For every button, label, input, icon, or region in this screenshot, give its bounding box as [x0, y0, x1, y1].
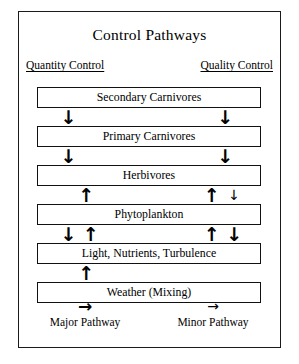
minor-pathway-down-arrow-icon: ↓: [226, 186, 242, 204]
trophic-level: Primary Carnivores: [37, 126, 261, 147]
arrow-gap: ↓↓: [37, 108, 261, 126]
minor-pathway-arrow-icon: →: [158, 296, 268, 316]
major-pathway-down-arrow-icon: ↓: [60, 147, 76, 165]
major-pathway-up-arrow-icon: ↑: [83, 225, 99, 243]
major-pathway-down-arrow-icon: ↓: [217, 108, 233, 126]
arrow-gap: ↑: [37, 264, 261, 282]
trophic-box: Herbivores: [37, 165, 261, 186]
major-pathway-arrow-icon: →: [30, 296, 140, 316]
major-pathway-down-arrow-icon: ↓: [60, 108, 76, 126]
column-header-quantity-control: Quantity Control: [26, 59, 104, 71]
trophic-level: Herbivores: [37, 165, 261, 186]
diagram-title: Control Pathways: [0, 26, 299, 44]
arrow-gap: ↓↑↑↓: [37, 225, 261, 243]
arrow-gap: ↑↑↓: [37, 186, 261, 204]
legend-item-major-pathway: → Major Pathway: [30, 296, 140, 328]
trophic-box: Light, Nutrients, Turbulence: [37, 243, 261, 264]
trophic-level: Secondary Carnivores: [37, 87, 261, 108]
trophic-box: Primary Carnivores: [37, 126, 261, 147]
control-pathways-diagram: Control Pathways Quantity Control Qualit…: [0, 0, 299, 364]
major-pathway-down-arrow-icon: ↓: [226, 225, 242, 243]
legend-label-minor-pathway: Minor Pathway: [158, 316, 268, 328]
column-headers: Quantity Control Quality Control: [18, 59, 281, 77]
major-pathway-up-arrow-icon: ↑: [78, 264, 94, 282]
legend: → Major Pathway → Minor Pathway: [18, 296, 281, 342]
trophic-stack: Secondary Carnivores↓↓Primary Carnivores…: [37, 87, 261, 303]
legend-item-minor-pathway: → Minor Pathway: [158, 296, 268, 328]
arrow-gap: ↓↓: [37, 147, 261, 165]
major-pathway-up-arrow-icon: ↑: [204, 186, 220, 204]
major-pathway-up-arrow-icon: ↑: [78, 186, 94, 204]
trophic-box: Secondary Carnivores: [37, 87, 261, 108]
trophic-level: Phytoplankton: [37, 204, 261, 225]
trophic-level: Light, Nutrients, Turbulence: [37, 243, 261, 264]
major-pathway-down-arrow-icon: ↓: [60, 225, 76, 243]
trophic-box: Phytoplankton: [37, 204, 261, 225]
column-header-quality-control: Quality Control: [200, 59, 273, 71]
major-pathway-down-arrow-icon: ↓: [217, 147, 233, 165]
legend-label-major-pathway: Major Pathway: [30, 316, 140, 328]
major-pathway-up-arrow-icon: ↑: [204, 225, 220, 243]
